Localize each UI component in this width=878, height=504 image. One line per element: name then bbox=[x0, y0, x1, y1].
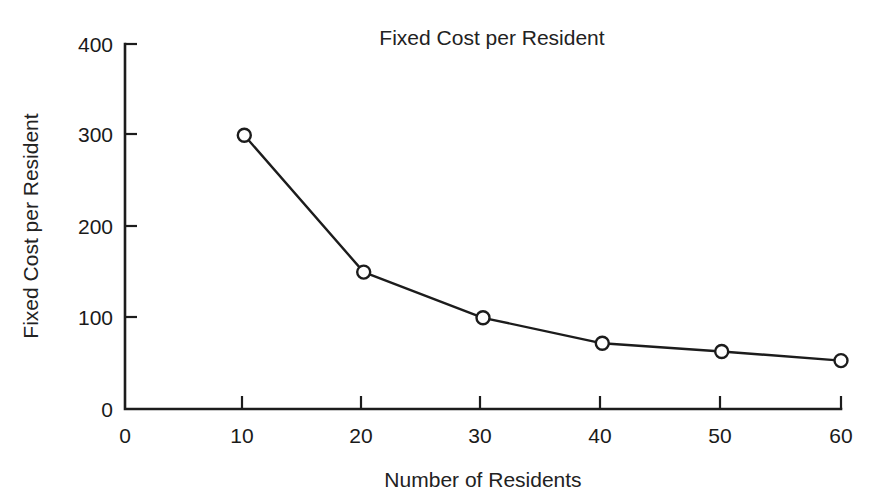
x-tick-label-60: 60 bbox=[829, 424, 852, 447]
chart-background bbox=[0, 0, 878, 504]
chart-title: Fixed Cost per Resident bbox=[379, 26, 604, 49]
x-tick-label-50: 50 bbox=[708, 424, 731, 447]
y-tick-label-400: 400 bbox=[78, 33, 113, 56]
y-tick-label-200: 200 bbox=[78, 215, 113, 238]
x-tick-label-0: 0 bbox=[119, 424, 131, 447]
line-chart-canvas: Fixed Cost per Resident 400 300 200 100 … bbox=[0, 0, 878, 504]
y-tick-label-300: 300 bbox=[78, 123, 113, 146]
x-axis-title: Number of Residents bbox=[384, 468, 581, 491]
data-point-marker bbox=[596, 337, 609, 350]
x-tick-label-40: 40 bbox=[588, 424, 611, 447]
chart-figure: Fixed Cost per Resident 400 300 200 100 … bbox=[0, 0, 878, 504]
y-tick-label-0: 0 bbox=[101, 398, 113, 421]
y-tick-label-100: 100 bbox=[78, 306, 113, 329]
data-point-marker bbox=[477, 311, 490, 324]
data-point-marker bbox=[357, 266, 370, 279]
data-point-marker bbox=[715, 345, 728, 358]
x-tick-label-10: 10 bbox=[230, 424, 253, 447]
x-tick-label-20: 20 bbox=[349, 424, 372, 447]
data-point-marker bbox=[238, 129, 251, 142]
x-tick-label-30: 30 bbox=[468, 424, 491, 447]
y-axis-title: Fixed Cost per Resident bbox=[19, 113, 42, 338]
data-point-marker bbox=[835, 354, 848, 367]
